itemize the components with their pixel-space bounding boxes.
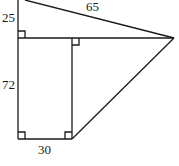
lower-diagonal-edge — [72, 38, 174, 139]
top-hypotenuse-edge — [25, 0, 174, 38]
geometry-figure: 65 25 72 30 — [0, 0, 179, 166]
right-angle-marker-bottom-right — [65, 132, 72, 139]
label-65: 65 — [86, 0, 99, 14]
label-72: 72 — [2, 77, 15, 92]
right-angle-marker-inner-top — [72, 38, 79, 45]
right-angle-marker-bottom-left — [18, 132, 25, 139]
right-angle-marker-top-left — [18, 31, 25, 38]
label-25: 25 — [2, 10, 15, 25]
label-30: 30 — [38, 142, 51, 157]
